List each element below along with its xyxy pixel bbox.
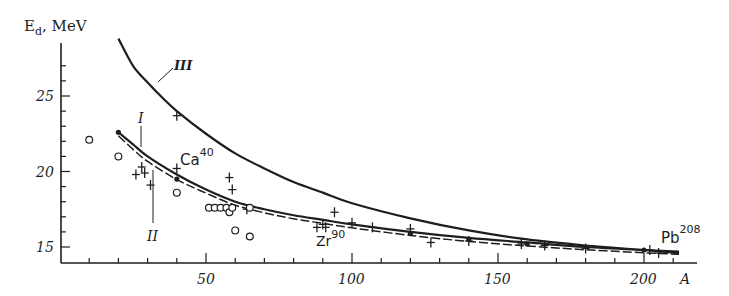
pb208-label: Pb208 xyxy=(661,223,701,247)
y-tick-15: 15 xyxy=(36,239,54,255)
circle-marker xyxy=(86,136,93,143)
dot-marker xyxy=(525,241,530,246)
circle-marker xyxy=(229,204,236,211)
y-tick-25: 25 xyxy=(35,88,54,104)
dot-marker xyxy=(174,176,179,181)
plus-marker xyxy=(132,170,140,180)
chart-figure: Ed, MeV 25 20 15 50 100 150 200 A III I … xyxy=(0,0,729,296)
circle-marker xyxy=(232,227,239,234)
plus-marker xyxy=(330,207,338,217)
x-tick-200: 200 xyxy=(629,271,657,287)
plus-marker xyxy=(348,218,356,228)
x-axis-label: A xyxy=(678,271,690,287)
data-markers xyxy=(86,111,663,258)
ca40-label: Ca40 xyxy=(180,146,214,169)
leader-III xyxy=(158,68,173,82)
circle-marker xyxy=(115,153,122,160)
x-tick-150: 150 xyxy=(484,271,511,287)
curve-I-label: I xyxy=(137,110,144,126)
plus-marker xyxy=(228,185,236,195)
circle-marker xyxy=(246,233,253,240)
circle-marker xyxy=(173,189,180,196)
circle-marker xyxy=(246,204,253,211)
plus-marker xyxy=(427,237,435,247)
curve-III-label: III xyxy=(173,58,193,73)
plus-marker xyxy=(225,173,233,183)
zr90-label: Zr90 xyxy=(316,228,345,249)
y-axis-label: Ed, MeV xyxy=(24,17,88,38)
x-tick-50: 50 xyxy=(197,271,215,287)
dot-marker xyxy=(641,247,646,252)
plus-marker xyxy=(517,239,525,249)
x-tick-100: 100 xyxy=(338,271,365,287)
y-tick-20: 20 xyxy=(35,164,54,180)
dot-marker xyxy=(408,231,413,236)
dot-marker xyxy=(116,130,121,135)
dot-marker xyxy=(466,237,471,242)
curve-II-label: II xyxy=(146,228,159,244)
